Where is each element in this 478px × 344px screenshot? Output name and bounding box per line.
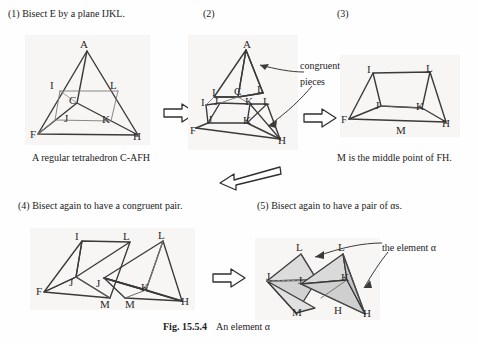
- figure-page: (1) Bisect E by a plane IJKL. (2) (3): [0, 0, 478, 344]
- d4-vertex-L-left: L: [123, 230, 130, 242]
- arrow-row1-to-row2: [218, 166, 282, 192]
- d2-vertex-J-low: J: [208, 113, 212, 125]
- step-label-2: (2): [203, 8, 215, 20]
- d3-vertex-J: J: [375, 99, 379, 111]
- d4-vertex-I: I: [75, 230, 79, 242]
- d5-vertex-J-right: J: [298, 274, 302, 286]
- arrow-4-to-5: [212, 268, 246, 288]
- d1-vertex-K: K: [102, 113, 110, 125]
- d4-vertex-H: H: [181, 295, 189, 307]
- d2-vertex-A: A: [243, 38, 251, 50]
- d4-vertex-K: K: [141, 281, 149, 293]
- d1-vertex-J: J: [64, 112, 68, 124]
- d5-vertex-H-right: H: [363, 307, 371, 319]
- pointer-alpha-right-icon: [348, 250, 390, 294]
- d2-vertex-K-low: K: [243, 114, 251, 126]
- congruent-label-line1: congruent: [300, 60, 340, 72]
- d2-vertex-I-lower: I: [201, 96, 205, 108]
- d2-vertex-K-mid: K: [245, 95, 253, 107]
- element-alpha-label: the element α: [382, 242, 436, 254]
- diagram-4-panel: [30, 228, 195, 310]
- diagram-4-congruent-pair: [30, 228, 195, 310]
- tetrahedron-note: A regular tetrahedron C-AFH: [32, 152, 150, 164]
- d2-vertex-H: H: [278, 134, 286, 146]
- pointer-congruent-upper-icon: [250, 58, 306, 80]
- d4-vertex-M-right: M: [125, 298, 135, 310]
- d3-vertex-M: M: [396, 124, 406, 136]
- figure-caption-number: Fig. 15.5.4: [163, 321, 207, 333]
- d4-vertex-J-right: J: [96, 277, 100, 289]
- d1-vertex-L: L: [110, 79, 117, 91]
- diagram-1-panel: [25, 35, 150, 145]
- d3-vertex-H: H: [442, 117, 450, 129]
- step-label-1: (1) Bisect E by a plane IJKL.: [8, 8, 125, 20]
- d3-vertex-I: I: [367, 63, 371, 75]
- d1-vertex-I: I: [50, 79, 54, 91]
- d5-vertex-J-left: J: [266, 270, 270, 282]
- d1-vertex-C: C: [69, 94, 76, 106]
- midpoint-note: M is the middle point of FH.: [337, 152, 452, 164]
- d4-vertex-J-left: J: [69, 276, 73, 288]
- d3-vertex-L: L: [426, 62, 433, 74]
- d1-vertex-H: H: [133, 130, 141, 142]
- d4-vertex-M-left: M: [100, 298, 110, 310]
- d2-vertex-F: F: [190, 124, 196, 136]
- d5-vertex-M: M: [292, 306, 302, 318]
- step-label-3: (3): [337, 8, 349, 20]
- d3-vertex-K: K: [416, 100, 424, 112]
- d5-vertex-H-left: H: [334, 304, 342, 316]
- d2-vertex-C: C: [234, 85, 241, 97]
- d5-vertex-L-left: L: [296, 241, 303, 253]
- step-label-4: (4) Bisect again to have a congruent pai…: [18, 200, 182, 212]
- d1-vertex-A: A: [80, 38, 88, 50]
- d1-vertex-F: F: [30, 128, 36, 140]
- d4-vertex-L-right: L: [158, 229, 165, 241]
- d4-vertex-F: F: [36, 285, 42, 297]
- step-label-5: (5) Bisect again to have a pair of αs.: [257, 200, 402, 212]
- d3-vertex-F: F: [341, 113, 347, 125]
- figure-caption-text: An element α: [216, 321, 270, 333]
- diagram-1-tetrahedron: [25, 35, 150, 145]
- d2-vertex-J-mid: J: [214, 95, 218, 107]
- arrow-2-to-3: [303, 108, 337, 128]
